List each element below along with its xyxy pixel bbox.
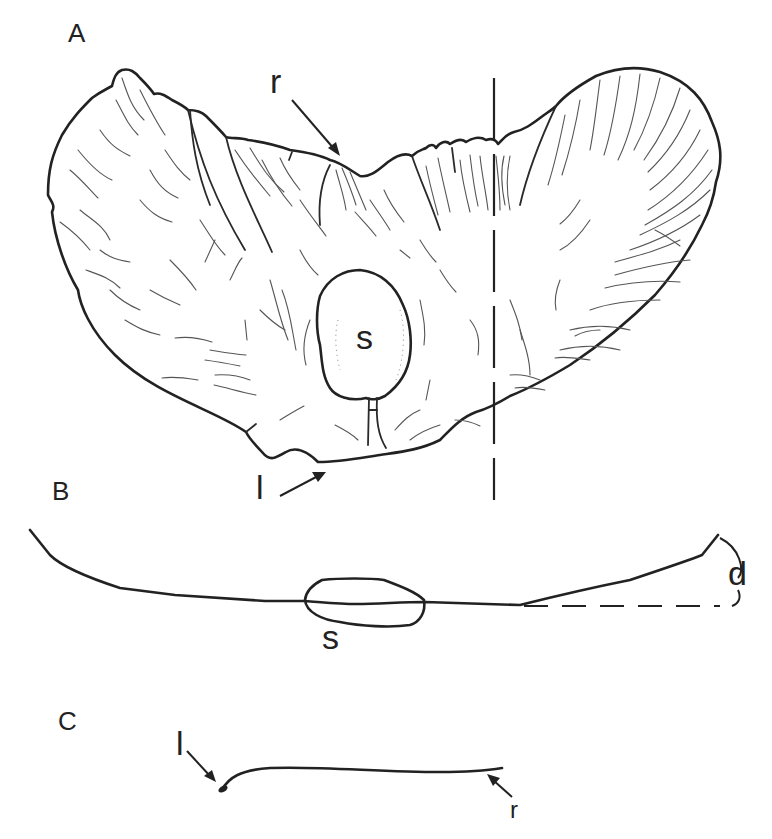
ridge-line (289, 152, 292, 160)
arrow-r (292, 100, 335, 150)
label-l-leading-edge: l (256, 470, 264, 504)
seed-stalk (368, 398, 369, 445)
wing-veins (60, 78, 318, 420)
panel-b-cross-section (30, 530, 741, 626)
ridge-line (319, 165, 330, 225)
ridge-line (190, 110, 210, 205)
arrow-l-c (187, 751, 210, 776)
longitudinal-section (222, 768, 502, 790)
panel-a-wing (48, 68, 720, 500)
seed-texture (396, 310, 403, 380)
panel-label-c: C (58, 708, 77, 734)
label-r-rib: r (270, 64, 281, 98)
ridge-line (188, 110, 245, 250)
panel-c-longitudinal (187, 751, 512, 797)
seed-stalk (377, 398, 386, 448)
ridge-line (452, 148, 455, 172)
samara-diagram: A B C r s l s d l r (0, 0, 772, 839)
wing-veins-right (510, 74, 712, 390)
seed-texture (336, 320, 340, 370)
panel-label-b: B (52, 478, 69, 504)
diagram-canvas (0, 0, 772, 839)
label-d-deflection: d (728, 556, 747, 590)
ridge-line (226, 137, 272, 252)
ridge-line (246, 424, 256, 432)
label-r-c: r (510, 798, 518, 822)
label-s-seed-b: s (322, 620, 339, 654)
panel-label-a: A (68, 20, 85, 46)
label-s-seed: s (356, 320, 373, 354)
cross-section-curve (30, 530, 718, 605)
leading-edge-thickening (217, 784, 229, 794)
label-l-c: l (176, 726, 184, 760)
wing-outline (48, 68, 720, 462)
arrow-l (280, 476, 318, 496)
